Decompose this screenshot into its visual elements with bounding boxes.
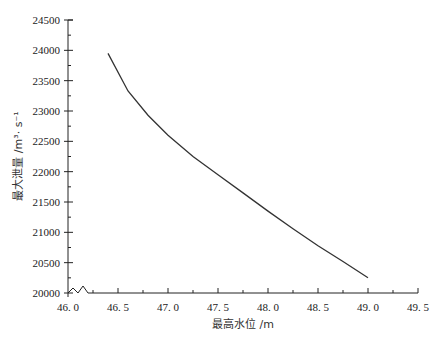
y-tick-label: 20500 — [33, 257, 61, 269]
y-tick-label: 20000 — [33, 287, 61, 299]
y-tick-label: 21500 — [33, 196, 61, 208]
x-tick-label: 46. 5 — [107, 301, 130, 313]
y-tick-label: 22500 — [33, 135, 61, 147]
axis-break-symbol — [68, 286, 90, 293]
x-axis: 46. 046. 547. 047. 548. 048. 549. 049. 5 — [57, 288, 430, 313]
x-tick-label: 49. 0 — [357, 301, 380, 313]
y-tick-label: 23500 — [33, 75, 61, 87]
y-axis-title: 最大泄量 /m³· s⁻¹ — [11, 111, 25, 200]
line-chart: 2000020500210002150022000225002300023500… — [0, 0, 446, 347]
data-series-line — [108, 53, 368, 277]
x-tick-label: 47. 0 — [157, 301, 180, 313]
y-tick-label: 22000 — [33, 166, 61, 178]
y-tick-label: 23000 — [33, 105, 61, 117]
x-tick-label: 47. 5 — [207, 301, 230, 313]
x-tick-label: 49. 5 — [407, 301, 430, 313]
x-axis-title: 最高水位 /m — [212, 317, 274, 331]
x-tick-label: 48. 0 — [257, 301, 280, 313]
x-tick-label: 48. 5 — [307, 301, 330, 313]
y-axis: 2000020500210002150022000225002300023500… — [33, 14, 74, 299]
y-tick-label: 24500 — [33, 14, 61, 26]
y-tick-label: 21000 — [33, 226, 61, 238]
x-tick-label: 46. 0 — [57, 301, 80, 313]
y-tick-label: 24000 — [33, 44, 61, 56]
